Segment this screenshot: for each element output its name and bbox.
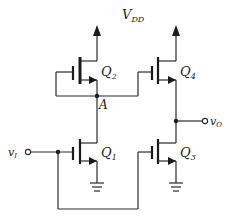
ground-icon <box>169 183 183 191</box>
transistor-q4 <box>138 25 180 143</box>
q2-label: Q2 <box>101 64 117 81</box>
output-label: vO <box>210 115 222 129</box>
vdd-label: VDD <box>122 7 145 24</box>
ground-icon <box>90 183 104 191</box>
input-label: vI <box>8 146 17 160</box>
q1-label: Q1 <box>101 145 117 162</box>
vdd-arrow-icon <box>93 25 101 36</box>
transistor-q3 <box>138 139 183 191</box>
source-arrow-icon <box>168 76 176 84</box>
q3-label: Q3 <box>180 145 196 162</box>
transistor-q2 <box>56 25 101 96</box>
source-arrow-icon <box>89 76 97 84</box>
output-terminal <box>202 118 207 123</box>
source-arrow-icon <box>168 157 176 165</box>
circuit-diagram: VDD Q2 A Q4 vO <box>0 0 235 223</box>
node-a-label: A <box>98 98 108 112</box>
input-terminal <box>25 149 30 154</box>
vdd-arrow-icon <box>172 25 180 36</box>
source-arrow-icon <box>89 157 97 165</box>
q4-label: Q4 <box>180 64 196 81</box>
